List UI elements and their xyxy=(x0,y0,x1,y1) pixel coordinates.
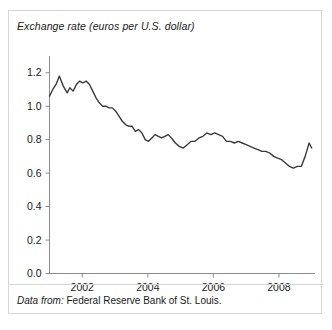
line-chart: 0.00.20.40.60.81.01.2 2002200420062008 xyxy=(9,11,323,315)
x-axis-tick-labels: 2002200420062008 xyxy=(71,281,291,293)
x-tick-label: 2002 xyxy=(71,281,95,293)
x-axis-ticks xyxy=(82,274,279,278)
x-tick-label: 2006 xyxy=(202,281,226,293)
y-tick-label: 0.4 xyxy=(27,200,42,212)
source-note: Data from: Federal Reserve Bank of St. L… xyxy=(17,295,222,306)
y-tick-label: 0.0 xyxy=(27,267,42,279)
source-text: Federal Reserve Bank of St. Louis. xyxy=(66,295,221,306)
y-axis: 0.00.20.40.60.81.01.2 xyxy=(27,56,50,279)
y-tick-label: 0.8 xyxy=(27,133,42,145)
y-axis-tick-labels: 0.00.20.40.60.81.01.2 xyxy=(27,66,42,279)
source-prefix: Data from: xyxy=(17,295,64,306)
y-axis-ticks xyxy=(46,73,50,274)
x-axis: 2002200420062008 xyxy=(50,274,316,293)
x-tick-label: 2004 xyxy=(136,281,160,293)
exchange-rate-line xyxy=(50,76,312,168)
figure-card: Exchange rate (euros per U.S. dollar) 0.… xyxy=(8,10,322,314)
y-tick-label: 1.2 xyxy=(27,66,42,78)
x-tick-label: 2008 xyxy=(267,281,291,293)
y-tick-label: 0.2 xyxy=(27,234,42,246)
y-tick-label: 0.6 xyxy=(27,167,42,179)
y-tick-label: 1.0 xyxy=(27,100,42,112)
source-divider xyxy=(9,284,323,285)
chart-svg: 0.00.20.40.60.81.01.2 2002200420062008 xyxy=(9,11,323,315)
